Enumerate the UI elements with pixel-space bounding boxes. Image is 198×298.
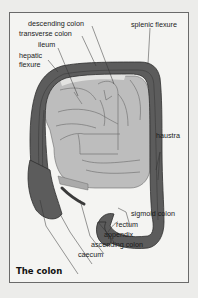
label-appendix: appendix: [104, 230, 134, 239]
label-caecum: caecum: [78, 250, 103, 259]
label-sigmoid-colon: sigmoid colon: [131, 209, 175, 218]
label-rectum: rectum: [116, 220, 138, 229]
label-transverse-colon: transverse colon: [19, 29, 72, 38]
figure-caption: The colon: [16, 266, 62, 276]
label-descending-colon: descending colon: [28, 19, 84, 28]
label-ileum: ileum: [38, 40, 55, 49]
label-haustra: haustra: [156, 131, 180, 140]
diagram-page: descending colon transverse colon ileum …: [0, 0, 198, 298]
label-hepatic-flexure-1: hepatic: [19, 51, 43, 60]
label-ascending-colon: ascending colon: [91, 240, 143, 249]
label-hepatic-flexure-2: flexure: [19, 60, 41, 69]
label-splenic-flexure: splenic flexure: [131, 20, 177, 29]
small-intestine: [43, 73, 150, 188]
colon-diagram: descending colon transverse colon ileum …: [0, 0, 198, 298]
